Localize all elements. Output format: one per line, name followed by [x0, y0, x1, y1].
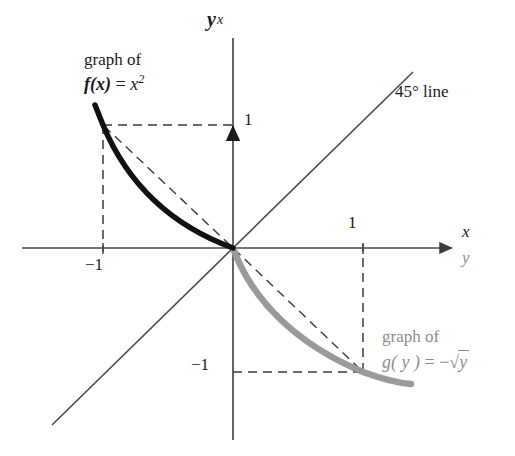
annotation-f-line1: graph of: [84, 50, 141, 69]
x-axis-label-secondary: y: [462, 248, 470, 268]
tick-label-y-negative-one: −1: [191, 355, 209, 375]
annotation-g-line1: graph of: [382, 327, 439, 346]
annotation-g-formula: g( y ) = −√y: [382, 350, 469, 373]
tick-label-x-negative-one: −1: [85, 255, 103, 275]
annotation-f-argument: (x): [90, 74, 111, 94]
curve-f-parabola: [95, 105, 233, 248]
x-axis-label-primary: x: [462, 222, 470, 242]
y-axis-label-primary: y: [207, 8, 216, 30]
y-axis-label-secondary: x: [217, 12, 223, 27]
tick-label-y-positive-one: 1: [244, 110, 253, 130]
annotation-f-formula: f(x) = x2: [84, 72, 144, 95]
annotation-f-equals: =: [111, 74, 130, 94]
annotation-f-base: x: [130, 74, 138, 94]
function-inverse-diagram: yx x y −1 1 1 −1 graph of f(x) = x2 45° …: [0, 0, 515, 456]
annotation-g-equals: = −: [420, 352, 449, 372]
y-axis-label: yx: [207, 8, 223, 31]
guide-f-chord: [104, 126, 232, 247]
annotation-g-function-name: g: [382, 352, 391, 372]
annotation-f-exponent: 2: [138, 72, 144, 86]
annotation-graph-of-g: graph of g( y ) = −√y: [382, 327, 469, 372]
diagram-canvas: [0, 0, 515, 456]
annotation-forty-five-line: 45° line: [395, 82, 449, 102]
guide-g-chord: [234, 249, 362, 371]
annotation-g-argument: ( y ): [391, 352, 420, 372]
tick-label-x-positive-one: 1: [348, 213, 357, 233]
annotation-graph-of-f: graph of f(x) = x2: [84, 50, 144, 94]
annotation-g-radicand: y: [458, 350, 469, 373]
